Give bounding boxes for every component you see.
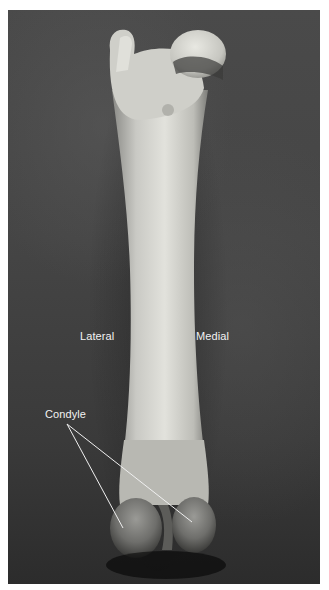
lateral-label: Lateral (80, 330, 114, 343)
femur-photo (8, 10, 320, 584)
femur-illustration (8, 10, 320, 584)
condyle-label: Condyle (45, 408, 86, 421)
medial-label: Medial (196, 330, 229, 343)
